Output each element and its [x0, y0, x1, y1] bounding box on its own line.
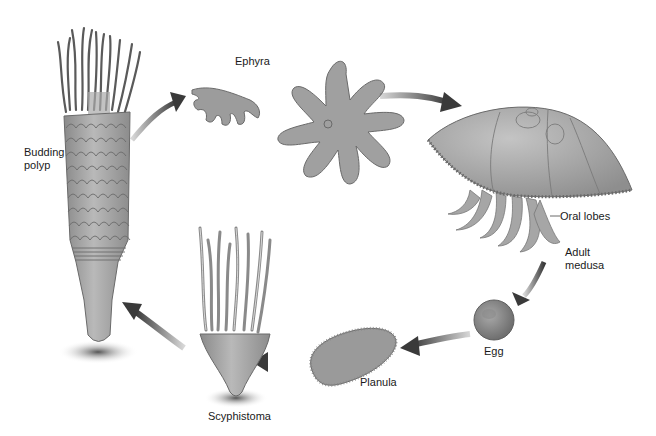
label-scyphistoma: Scyphistoma: [208, 410, 271, 423]
label-adult-line1: Adult: [565, 246, 604, 259]
label-budding-line2: polyp: [24, 159, 64, 172]
label-oral-lobes: Oral lobes: [560, 210, 610, 223]
label-ephyra: Ephyra: [235, 55, 270, 68]
arrow-medusa-to-egg: [512, 262, 544, 306]
label-planula: Planula: [360, 376, 397, 389]
life-cycle-diagram: Budding polyp Ephyra Oral lobes Adult me…: [0, 0, 656, 436]
budding-polyp: [58, 28, 140, 364]
label-budding-polyp: Budding polyp: [24, 146, 64, 172]
arrow-polyp-to-ephyra: [132, 92, 186, 140]
adult-medusa: [428, 107, 632, 252]
arrow-ephyra-to-medusa: [380, 92, 462, 112]
ephyra-side: [192, 88, 260, 125]
egg: [474, 300, 514, 340]
label-adult-medusa: Adult medusa: [565, 246, 604, 272]
ephyra-top: [278, 61, 404, 184]
arrow-egg-to-planula: [400, 334, 470, 356]
scyphistoma: [200, 228, 270, 408]
label-budding-line1: Budding: [24, 146, 64, 159]
label-adult-line2: medusa: [565, 259, 604, 272]
arrow-scyphistoma-to-polyp: [122, 302, 184, 348]
label-egg: Egg: [484, 345, 504, 358]
